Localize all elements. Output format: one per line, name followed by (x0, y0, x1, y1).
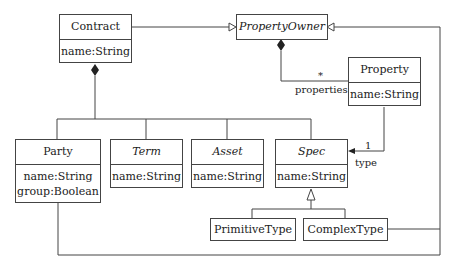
role-type: type (355, 157, 377, 168)
class-primitivetype: PrimitiveType (210, 218, 296, 241)
attribute: name:String (349, 87, 420, 102)
attribute: name:String (276, 169, 347, 184)
attribute: name:String (192, 169, 263, 184)
class-name: Spec (276, 140, 347, 164)
class-complextype: ComplexType (303, 218, 388, 241)
class-name: Term (111, 140, 182, 164)
class-attributes: name:String (111, 164, 182, 187)
generalization-arrowhead-right (327, 23, 334, 31)
class-property: Property name:String (348, 57, 421, 106)
class-name: Asset (192, 140, 263, 164)
class-attributes: name:String (192, 164, 263, 187)
class-name: PrimitiveType (211, 219, 295, 240)
composition-diamond-contract (91, 64, 99, 76)
class-attributes: name:String (349, 82, 420, 105)
class-contract: Contract name:String (59, 14, 132, 63)
class-term: Term name:String (110, 139, 183, 188)
attribute: name:String (111, 169, 182, 184)
class-name: PropertyOwner (237, 15, 327, 39)
class-party: Party name:String group:Boolean (15, 139, 101, 203)
class-attributes: name:String group:Boolean (16, 164, 100, 202)
class-asset: Asset name:String (191, 139, 264, 188)
multiplicity-properties: * (318, 70, 323, 81)
attribute: name:String (60, 44, 131, 59)
attribute: group:Boolean (16, 184, 100, 199)
class-attributes: name:String (276, 164, 347, 187)
class-name: Contract (60, 15, 131, 39)
association-arrowhead-type (348, 148, 355, 154)
class-propertyowner: PropertyOwner (236, 14, 328, 40)
multiplicity-type: 1 (365, 140, 371, 151)
class-name: Party (16, 140, 100, 164)
composition-diamond-propertyowner (277, 39, 285, 51)
class-spec: Spec name:String (275, 139, 348, 188)
attribute: name:String (16, 169, 100, 184)
class-name: ComplexType (304, 219, 387, 240)
generalization-arrowhead-spec (307, 189, 315, 200)
role-properties: properties (295, 84, 348, 95)
generalization-arrowhead-contract (229, 23, 236, 31)
class-attributes: name:String (60, 39, 131, 62)
class-name: Property (349, 58, 420, 82)
